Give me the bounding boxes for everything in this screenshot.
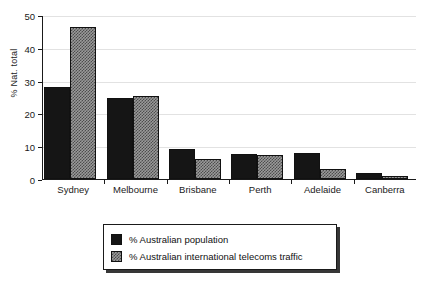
bar xyxy=(257,155,283,179)
y-tick-mark xyxy=(38,147,42,148)
x-axis-label: Melbourne xyxy=(104,184,166,195)
bar xyxy=(231,154,257,179)
y-tick-mark xyxy=(38,82,42,83)
y-tick-mark xyxy=(38,49,42,50)
y-tick-label: 10 xyxy=(24,142,35,153)
x-axis-label: Perth xyxy=(229,184,291,195)
y-axis-line xyxy=(42,16,43,180)
x-axis-label: Sydney xyxy=(42,184,104,195)
y-axis-title: % Nat. total xyxy=(9,33,19,113)
legend-label-telecoms: % Australian international telecoms traf… xyxy=(129,251,303,262)
bar xyxy=(320,169,346,179)
bar-group xyxy=(44,16,96,179)
x-axis-label: Canberra xyxy=(354,184,416,195)
x-axis-label: Adelaide xyxy=(291,184,353,195)
legend-swatch-telecoms xyxy=(111,251,122,262)
y-tick-mark xyxy=(38,180,42,181)
bar xyxy=(44,87,70,179)
bar xyxy=(133,96,159,179)
legend-item-population: % Australian population xyxy=(111,232,228,246)
bar xyxy=(382,176,408,179)
legend-item-telecoms: % Australian international telecoms traf… xyxy=(111,249,303,263)
bar xyxy=(195,159,221,179)
bar xyxy=(169,149,195,180)
x-axis-label: Brisbane xyxy=(167,184,229,195)
bar-group xyxy=(294,16,346,179)
bar-group xyxy=(231,16,283,179)
x-tick-mark xyxy=(354,180,355,184)
bar-group xyxy=(169,16,221,179)
legend-swatch-population xyxy=(111,234,122,245)
bar xyxy=(107,98,133,179)
x-tick-mark xyxy=(104,180,105,184)
y-tick-label: 50 xyxy=(24,11,35,22)
y-tick-label: 40 xyxy=(24,43,35,54)
y-tick-label: 30 xyxy=(24,76,35,87)
plot-area: 01020304050 SydneyMelbourneBrisbanePerth… xyxy=(42,16,416,180)
y-tick-mark xyxy=(38,16,42,17)
chart-legend: % Australian population % Australian int… xyxy=(103,224,337,270)
y-tick-mark xyxy=(38,114,42,115)
y-tick-label: 20 xyxy=(24,109,35,120)
bar-group xyxy=(107,16,159,179)
bar-group xyxy=(356,16,408,179)
bar xyxy=(356,173,382,179)
x-tick-mark xyxy=(229,180,230,184)
bar xyxy=(70,27,96,179)
bar-chart-figure: % Nat. total 01020304050 SydneyMelbourne… xyxy=(0,0,436,286)
legend-label-population: % Australian population xyxy=(129,234,228,245)
x-tick-mark xyxy=(167,180,168,184)
bar xyxy=(294,153,320,179)
y-tick-label: 0 xyxy=(30,175,35,186)
x-tick-mark xyxy=(291,180,292,184)
